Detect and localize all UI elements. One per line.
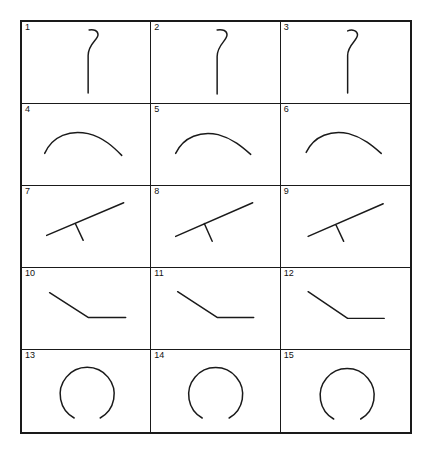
- stroke-cell[interactable]: 14: [151, 350, 280, 432]
- stroke-cell[interactable]: 7: [22, 186, 151, 268]
- open-circle-stroke: [22, 350, 150, 432]
- hook-stroke-path: [217, 30, 227, 94]
- descending-elbow-stroke: [22, 268, 150, 349]
- stroke-grid: 123456789101112131415: [20, 20, 412, 434]
- diagonal-with-tick-stroke-path: [176, 203, 253, 242]
- diagonal-with-tick-stroke-path: [47, 203, 124, 241]
- hook-stroke: [22, 22, 150, 103]
- descending-elbow-stroke: [281, 268, 410, 349]
- dome-arc-stroke: [151, 104, 279, 185]
- open-circle-stroke-path: [320, 369, 374, 419]
- dome-arc-stroke: [281, 104, 410, 185]
- hook-stroke: [151, 22, 279, 103]
- stroke-cell[interactable]: 5: [151, 104, 280, 186]
- diagonal-with-tick-stroke: [22, 186, 150, 267]
- descending-elbow-stroke-path: [50, 293, 126, 318]
- descending-elbow-stroke-path: [308, 292, 384, 319]
- stroke-cell[interactable]: 1: [22, 22, 151, 104]
- diagonal-with-tick-stroke-path: [308, 204, 383, 242]
- dome-arc-stroke-path: [176, 133, 251, 154]
- diagonal-with-tick-stroke: [281, 186, 410, 267]
- dome-arc-stroke-path: [45, 132, 122, 155]
- descending-elbow-stroke: [151, 268, 279, 349]
- stroke-cell[interactable]: 4: [22, 104, 151, 186]
- dome-arc-stroke-path: [306, 132, 381, 153]
- stroke-cell[interactable]: 6: [281, 104, 410, 186]
- stroke-cell[interactable]: 2: [151, 22, 280, 104]
- stroke-cell[interactable]: 8: [151, 186, 280, 268]
- stroke-cell[interactable]: 15: [281, 350, 410, 432]
- stroke-cell[interactable]: 3: [281, 22, 410, 104]
- diagonal-with-tick-stroke: [151, 186, 279, 267]
- open-circle-stroke-path: [189, 368, 243, 418]
- dome-arc-stroke: [22, 104, 150, 185]
- hook-stroke: [281, 22, 410, 103]
- hook-stroke-path: [347, 30, 357, 93]
- stroke-cell[interactable]: 12: [281, 268, 410, 350]
- descending-elbow-stroke-path: [178, 292, 254, 318]
- stroke-cell[interactable]: 13: [22, 350, 151, 432]
- hook-stroke-path: [88, 30, 98, 93]
- stroke-cell[interactable]: 10: [22, 268, 151, 350]
- open-circle-stroke: [151, 350, 279, 432]
- open-circle-stroke-path: [60, 367, 114, 418]
- stroke-cell[interactable]: 9: [281, 186, 410, 268]
- open-circle-stroke: [281, 350, 410, 432]
- stroke-cell[interactable]: 11: [151, 268, 280, 350]
- figure-sheet: 123456789101112131415: [0, 0, 432, 454]
